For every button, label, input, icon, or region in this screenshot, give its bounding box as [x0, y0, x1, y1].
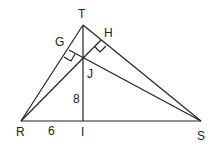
label-R: R — [16, 125, 25, 139]
label-S: S — [197, 129, 205, 143]
label-J: J — [87, 67, 93, 81]
geometry-diagram: T G H J 8 R 6 I S — [0, 0, 219, 147]
label-T: T — [78, 7, 86, 21]
label-length-8: 8 — [73, 92, 80, 106]
label-G: G — [55, 35, 64, 49]
side-RT — [21, 25, 83, 121]
label-H: H — [104, 26, 113, 40]
right-angle-mark-G — [64, 54, 75, 61]
label-I: I — [81, 125, 84, 139]
altitude-SG — [69, 50, 201, 121]
side-TS — [83, 25, 201, 121]
label-length-6: 6 — [48, 124, 55, 138]
right-angle-mark-H — [95, 46, 106, 52]
